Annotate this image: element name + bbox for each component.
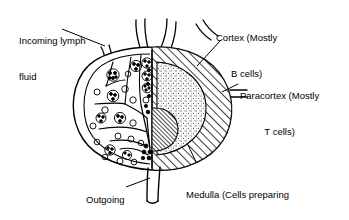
efferent-vessel xyxy=(147,167,160,203)
label-outgoing-lymph-fluid: Outgoing lymph fluid xyxy=(86,170,125,220)
label-incoming-lymph-fluid: Incoming lymph fluid xyxy=(19,11,86,107)
label-incoming-line1: Incoming lymph xyxy=(19,35,86,47)
label-paracortex-line2: T cells) xyxy=(240,126,319,138)
label-incoming-line2: fluid xyxy=(19,71,86,83)
label-paracortex: Paracortex (Mostly T cells) xyxy=(240,66,319,162)
label-cortex-line1: Cortex (Mostly xyxy=(216,32,277,44)
diagram-page: Incoming lymph fluid Outgoing lymph flui… xyxy=(0,0,349,220)
label-paracortex-line1: Paracortex (Mostly xyxy=(240,90,319,102)
afferent-vessel-upper-right xyxy=(196,20,218,40)
label-medulla: Medulla (Cells preparing to exit lymph n… xyxy=(186,165,289,220)
afferent-vessel-right xyxy=(160,19,176,51)
label-outgoing-line1: Outgoing xyxy=(86,194,125,206)
label-medulla-line1: Medulla (Cells preparing xyxy=(186,189,289,201)
leader-outgoing xyxy=(126,178,150,187)
